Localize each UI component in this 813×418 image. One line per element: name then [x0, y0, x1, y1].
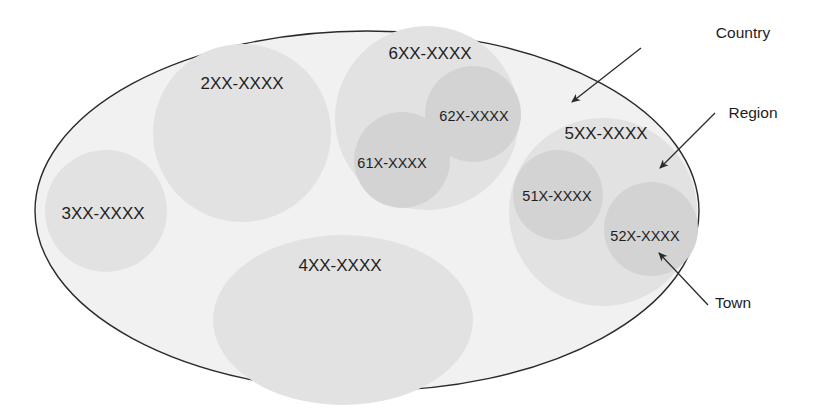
- town-label-61x: 61X-XXXX: [357, 155, 426, 171]
- region-area-2xx: [153, 44, 331, 222]
- numbering-plan-diagram: 2XX-XXXX 3XX-XXXX 4XX-XXXX 6XX-XXXX 5XX-…: [0, 0, 813, 418]
- callout-label-region: Region: [728, 104, 777, 122]
- town-label-52x: 52X-XXXX: [610, 228, 679, 244]
- region-label-5xx: 5XX-XXXX: [564, 124, 647, 144]
- town-label-51x: 51X-XXXX: [522, 188, 591, 204]
- region-label-4xx: 4XX-XXXX: [298, 256, 381, 276]
- region-label-2xx: 2XX-XXXX: [200, 74, 283, 94]
- region-label-6xx: 6XX-XXXX: [388, 44, 471, 64]
- callout-label-country: Country: [716, 24, 770, 42]
- region-label-3xx: 3XX-XXXX: [61, 204, 144, 224]
- town-label-62x: 62X-XXXX: [439, 108, 508, 124]
- callout-label-town: Town: [715, 294, 751, 312]
